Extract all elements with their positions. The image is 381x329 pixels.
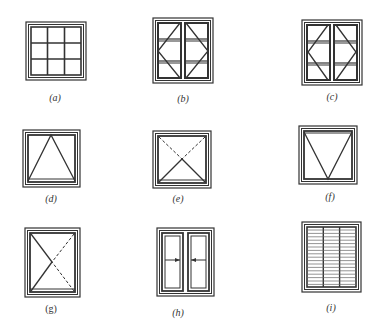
label-e: (e): [172, 193, 183, 204]
label-g: (g): [45, 303, 57, 314]
label-a: (a): [49, 92, 61, 103]
label-c: (c): [326, 91, 337, 102]
label-d: (d): [45, 193, 57, 204]
window-h-arrows: [175, 258, 196, 262]
window-g-tilt-turn: [25, 228, 80, 297]
window-h-sliding: [157, 228, 214, 296]
window-i-louvre: [302, 222, 361, 292]
window-symbols-diagram: [0, 0, 381, 329]
label-b: (b): [177, 93, 189, 104]
window-a-fixed-grid: [26, 22, 86, 80]
window-d-top-hung: [23, 130, 80, 187]
label-i: (i): [326, 302, 335, 313]
label-h: (h): [172, 307, 184, 318]
window-c-double-casement: [302, 20, 362, 85]
window-e-dashed: [153, 131, 211, 188]
window-f-bottom-hung: [299, 126, 357, 184]
window-b-double-casement: [153, 18, 213, 83]
label-f: (f): [325, 191, 334, 202]
